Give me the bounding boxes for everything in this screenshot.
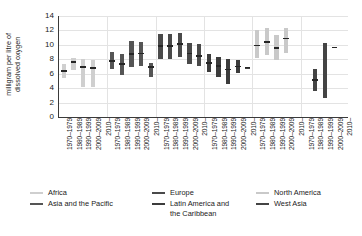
- legend-swatch-icon: [30, 192, 43, 194]
- legend-column: AfricaAsia and the Pacific: [30, 188, 113, 211]
- x-tick-label: 1990–1999: [327, 118, 334, 174]
- median-marker: [206, 62, 212, 64]
- median-marker: [109, 60, 115, 62]
- group-separator: [252, 16, 253, 117]
- y-tick-label: 10: [40, 41, 54, 49]
- range-bar: [216, 57, 220, 76]
- x-tick-label: 1970–1979: [259, 118, 266, 174]
- group-separator: [156, 16, 157, 117]
- median-marker: [138, 53, 144, 55]
- x-tick-label: 1970–1979: [66, 118, 73, 174]
- x-tick-label: 2000–2009: [143, 118, 150, 174]
- legend-item[interactable]: Europe: [152, 188, 229, 197]
- median-marker: [283, 38, 289, 40]
- plot-area: [58, 16, 348, 117]
- median-marker: [61, 70, 67, 72]
- range-bar: [91, 60, 95, 87]
- x-tick-label: 2000–2009: [192, 118, 199, 174]
- legend-swatch-icon: [30, 203, 43, 205]
- median-marker: [71, 61, 77, 63]
- legend-item[interactable]: West Asia: [256, 199, 321, 208]
- x-tick-label: 2000–2009: [337, 118, 344, 174]
- range-bar: [323, 43, 327, 99]
- median-marker: [254, 45, 260, 47]
- legend-swatch-icon: [256, 192, 269, 194]
- legend-label: Asia and the Pacific: [48, 199, 113, 208]
- legend-item[interactable]: Africa: [30, 188, 113, 197]
- legend-label: Europe: [170, 188, 229, 197]
- x-tick-label: 1990–1999: [134, 118, 141, 174]
- median-marker: [158, 45, 164, 47]
- median-marker: [216, 65, 222, 67]
- x-tick-label: 1970–1979: [114, 118, 121, 174]
- x-tick-label: 2010–: [346, 118, 353, 174]
- x-tick-label: 1990–1999: [182, 118, 189, 174]
- legend-column: EuropeLatin America and the Caribbean: [152, 188, 229, 220]
- range-bar: [178, 33, 182, 57]
- y-tick-label: 0: [40, 113, 54, 121]
- legend-swatch-icon: [256, 203, 269, 205]
- y-tick-label: 2: [40, 99, 54, 107]
- median-marker: [264, 41, 270, 43]
- legend-label: Latin America and the Caribbean: [170, 199, 229, 218]
- median-marker: [196, 55, 202, 57]
- median-marker: [225, 69, 231, 71]
- x-tick-label: 1990–1999: [279, 118, 286, 174]
- legend-label: North America: [274, 188, 321, 197]
- chart-container: milligram per litre of dissolved oxygen …: [0, 0, 362, 236]
- median-marker: [332, 47, 338, 49]
- legend-item[interactable]: North America: [256, 188, 321, 197]
- group-separator: [107, 16, 108, 117]
- y-tick-label: 6: [40, 70, 54, 78]
- y-tick-label: 4: [40, 84, 54, 92]
- x-tick-label: 1970–1979: [163, 118, 170, 174]
- legend-label: Africa: [48, 188, 113, 197]
- group-separator: [204, 16, 205, 117]
- x-tick-label: 2010–: [153, 118, 160, 174]
- median-marker: [129, 53, 135, 55]
- legend-item[interactable]: Asia and the Pacific: [30, 199, 113, 208]
- x-tick-label: 1980–1989: [124, 118, 131, 174]
- y-axis-title: milligram per litre of dissolved oxygen: [0, 6, 26, 124]
- range-bar: [149, 63, 153, 77]
- y-tick-label: 12: [40, 26, 54, 34]
- x-tick-label: 1980–1989: [172, 118, 179, 174]
- legend-swatch-icon: [152, 203, 165, 205]
- x-tick-label: 1990–1999: [85, 118, 92, 174]
- y-tick-label: 8: [40, 55, 54, 63]
- legend-label: West Asia: [274, 199, 321, 208]
- chart-legend: AfricaAsia and the PacificEuropeLatin Am…: [30, 188, 356, 232]
- legend-swatch-icon: [152, 192, 165, 194]
- x-tick-label: 2010–: [250, 118, 257, 174]
- median-marker: [177, 43, 183, 45]
- x-tick-label: 1980–1989: [317, 118, 324, 174]
- median-marker: [245, 67, 251, 69]
- median-marker: [187, 53, 193, 55]
- median-marker: [119, 63, 125, 65]
- median-marker: [274, 47, 280, 49]
- x-tick-label: 1970–1979: [211, 118, 218, 174]
- x-tick-label: 1990–1999: [230, 118, 237, 174]
- x-tick-label: 1980–1989: [221, 118, 228, 174]
- median-marker: [148, 66, 154, 68]
- x-axis-ticks: 1970–19791980–19891990–19992000–20092010…: [58, 118, 348, 180]
- group-separator: [301, 16, 302, 117]
- x-tick-label: 1980–1989: [76, 118, 83, 174]
- y-axis-ticks: 02468101214: [38, 16, 54, 117]
- median-marker: [80, 66, 86, 68]
- x-tick-label: 2000–2009: [95, 118, 102, 174]
- y-axis-title-text: milligram per litre of dissolved oxygen: [4, 8, 23, 120]
- range-bar: [71, 58, 75, 70]
- median-marker: [312, 79, 318, 81]
- median-marker: [90, 67, 96, 69]
- range-bar: [226, 59, 230, 84]
- median-marker: [235, 66, 241, 68]
- x-tick-label: 1970–1979: [308, 118, 315, 174]
- x-tick-label: 1980–1989: [269, 118, 276, 174]
- legend-item[interactable]: Latin America and the Caribbean: [152, 199, 229, 218]
- range-bar: [284, 28, 288, 53]
- x-tick-label: 2000–2009: [288, 118, 295, 174]
- x-tick-label: 2010–: [298, 118, 305, 174]
- range-bar: [81, 59, 85, 86]
- y-tick-label: 14: [40, 12, 54, 20]
